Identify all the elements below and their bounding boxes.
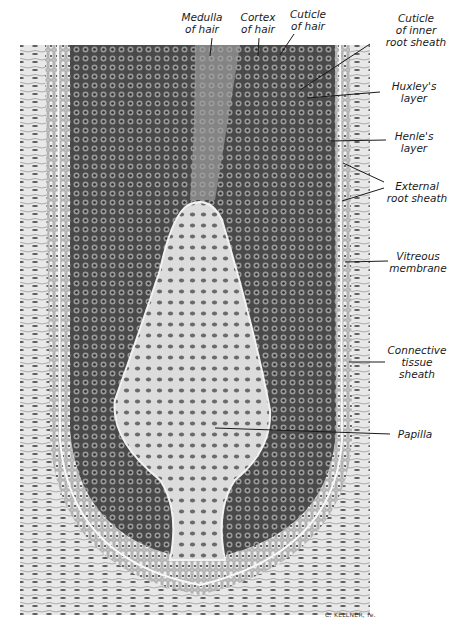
label-cortex-of-hair: Cortex of hair bbox=[232, 11, 284, 35]
label-papilla: Papilla bbox=[390, 428, 440, 440]
label-connective-tissue-sheath: Connective tissue sheath bbox=[382, 344, 452, 380]
artist-signature: C. KELLNER, fe. bbox=[325, 611, 376, 618]
label-external-root-sheath: External root sheath bbox=[382, 180, 452, 204]
label-henles-layer: Henle's layer bbox=[384, 130, 444, 154]
label-medulla-of-hair: Medulla of hair bbox=[172, 11, 232, 35]
label-huxleys-layer: Huxley's layer bbox=[384, 80, 444, 104]
label-cuticle-of-hair: Cuticle of hair bbox=[282, 8, 334, 32]
label-cuticle-of-inner-root-sheath: Cuticle of inner root sheath bbox=[380, 12, 452, 48]
label-vitreous-membrane: Vitreous membrane bbox=[386, 250, 450, 274]
